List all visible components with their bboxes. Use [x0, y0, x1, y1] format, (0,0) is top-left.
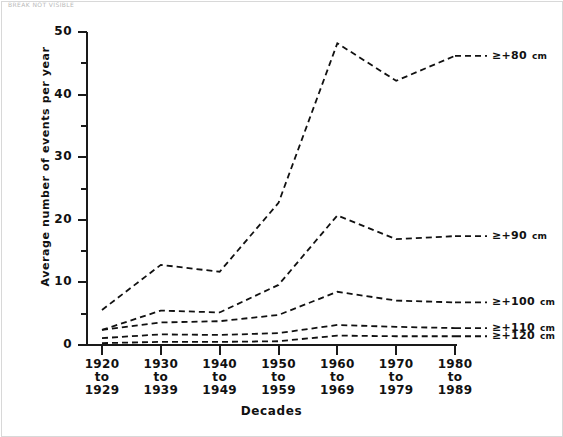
series-lines: [0, 0, 563, 437]
series-line-5: [102, 336, 455, 344]
series-line-3: [102, 292, 455, 330]
series-line-1: [102, 43, 455, 310]
series-unit: cm: [532, 51, 547, 61]
series-label-2: ≥+90cm: [492, 229, 547, 242]
series-label-1: ≥+80cm: [492, 49, 547, 62]
series-unit: cm: [540, 297, 555, 307]
series-label-5: ≥+120cm: [492, 329, 555, 342]
series-line-2: [102, 215, 455, 330]
plot-area: 01020304050 1920to19291930to19391940to19…: [0, 0, 563, 437]
y-axis-title: Average number of events per year: [39, 42, 52, 292]
series-unit: cm: [540, 331, 555, 341]
chart-page: BREAK NOT VISIBLE 01020304050 1920to1929…: [0, 0, 563, 437]
series-name: ≥+80: [492, 49, 527, 62]
series-unit: cm: [532, 231, 547, 241]
series-name: ≥+120: [492, 329, 535, 342]
x-axis-title: Decades: [86, 404, 457, 418]
series-name: ≥+90: [492, 229, 527, 242]
series-label-3: ≥+100cm: [492, 295, 555, 308]
series-name: ≥+100: [492, 295, 535, 308]
